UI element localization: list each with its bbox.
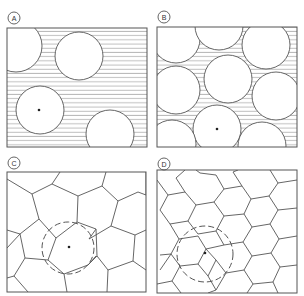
circle: [238, 122, 286, 170]
panel-d-label: D: [158, 158, 170, 170]
circle: [252, 72, 300, 120]
circle: [152, 66, 200, 114]
center-dot: [38, 109, 41, 112]
center-dot: [204, 252, 207, 255]
figure: A B: [0, 0, 304, 296]
circle: [152, 15, 200, 63]
svg-text:A: A: [12, 15, 17, 22]
circle: [148, 120, 196, 168]
circle: [204, 55, 252, 103]
circle: [55, 32, 103, 80]
hexagon-grid: [157, 170, 297, 293]
panel-a: A: [0, 12, 147, 158]
panel-b-label: B: [158, 11, 170, 23]
circle: [86, 110, 134, 158]
circle: [242, 21, 290, 69]
svg-text:B: B: [162, 14, 167, 21]
panel-c-label: C: [8, 157, 20, 169]
hexagon-grid: [7, 172, 146, 292]
panel-a-label: A: [8, 12, 20, 24]
panel-b: B: [148, 0, 304, 170]
center-dot: [216, 128, 219, 131]
panel-c: C: [7, 157, 146, 292]
dashed-circle: [42, 222, 94, 274]
panel-d: D: [157, 158, 297, 293]
svg-text:D: D: [161, 161, 166, 168]
center-dot: [68, 246, 71, 249]
panel-c-frame: [7, 172, 146, 292]
circle: [195, 2, 243, 50]
circle: [296, 0, 304, 24]
svg-text:C: C: [11, 160, 16, 167]
